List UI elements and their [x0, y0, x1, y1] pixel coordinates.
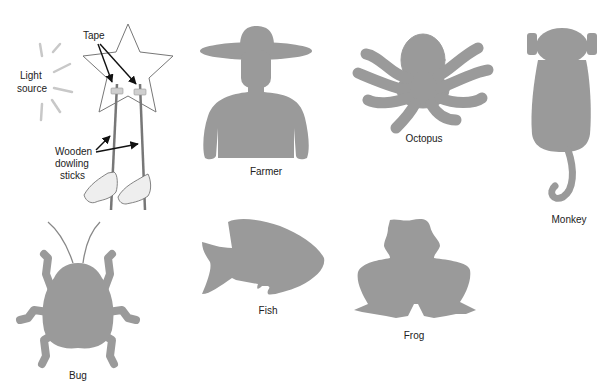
bug-caption: Bug: [48, 370, 108, 382]
octopus-caption: Octopus: [394, 133, 454, 145]
farmer-caption: Farmer: [236, 166, 296, 178]
tape-icon: [111, 88, 146, 95]
monkey-caption: Monkey: [539, 214, 599, 226]
hands-icon: [84, 172, 151, 204]
shadow-puppet-diagram: [0, 0, 613, 388]
frog-caption: Frog: [384, 330, 444, 342]
bug-silhouette: [20, 222, 136, 364]
frog-silhouette: [354, 219, 476, 318]
farmer-silhouette: [200, 26, 312, 159]
monkey-silhouette: [527, 28, 597, 198]
light-rays-icon: [40, 44, 72, 120]
tape-label: Tape: [83, 30, 105, 42]
sticks-label-line1: Wooden: [55, 146, 92, 158]
octopus-silhouette: [358, 34, 488, 128]
sticks-label-line3: sticks: [60, 170, 85, 182]
fish-silhouette: [202, 219, 324, 294]
light-source-label-line2: source: [17, 83, 47, 95]
sticks-label-line2: dowling: [55, 158, 89, 170]
light-source-label-line1: Light: [20, 70, 42, 82]
fish-caption: Fish: [238, 305, 298, 317]
